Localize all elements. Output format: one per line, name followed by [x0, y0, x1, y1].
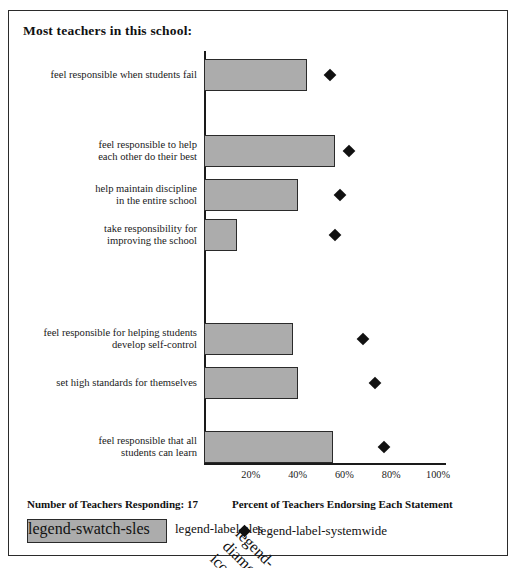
marker-systemwide-3	[333, 189, 346, 202]
category-label-1: feel responsible when students fail	[19, 69, 197, 81]
category-label-line: each other do their best	[19, 151, 197, 163]
chart-frame: Most teachers in this school: feel respo…	[8, 10, 508, 556]
x-axis-caption: Percent of Teachers Endorsing Each State…	[232, 498, 453, 510]
marker-systemwide-6	[368, 377, 381, 390]
legend-swatch-sles: legend-swatch-sles	[27, 519, 167, 543]
x-tick-label-60: 60%	[335, 469, 354, 480]
bar-3	[204, 179, 298, 211]
null[interactable]: legend-label-systemwide	[257, 523, 387, 539]
bar-7	[204, 431, 333, 463]
category-label-6: set high standards for themselves	[19, 377, 197, 389]
category-label-line: develop self-control	[19, 339, 197, 351]
category-label-line: feel responsible that all	[19, 435, 197, 447]
x-tick-label-80: 80%	[382, 469, 401, 480]
bar-5	[204, 323, 293, 355]
bar-2	[204, 135, 335, 167]
marker-systemwide-1	[324, 69, 337, 82]
category-label-line: feel responsible when students fail	[19, 69, 197, 81]
bar-1	[204, 59, 307, 91]
x-tick-label-100: 100%	[426, 469, 450, 480]
category-label-4: take responsibility forimproving the sch…	[19, 223, 197, 248]
category-label-7: feel responsible that allstudents can le…	[19, 435, 197, 460]
x-axis-line	[204, 463, 446, 465]
category-label-line: students can learn	[19, 447, 197, 459]
category-label-line: feel responsible for helping students	[19, 327, 197, 339]
bar-4	[204, 219, 237, 251]
marker-systemwide-5	[357, 333, 370, 346]
category-label-line: improving the school	[19, 235, 197, 247]
y-axis-line	[204, 51, 206, 463]
marker-systemwide-2	[343, 145, 356, 158]
category-label-line: in the entire school	[19, 195, 197, 207]
teachers-responding-label: Number of Teachers Responding: 17	[27, 498, 198, 510]
x-tick-label-40: 40%	[288, 469, 307, 480]
category-label-line: set high standards for themselves	[19, 377, 197, 389]
category-label-3: help maintain disciplinein the entire sc…	[19, 183, 197, 208]
category-label-line: feel responsible to help	[19, 139, 197, 151]
x-tick-label-20: 20%	[241, 469, 260, 480]
marker-systemwide-7	[378, 441, 391, 454]
bar-6	[204, 367, 298, 399]
category-label-line: take responsibility for	[19, 223, 197, 235]
marker-systemwide-4	[329, 229, 342, 242]
category-label-2: feel responsible to helpeach other do th…	[19, 139, 197, 164]
plot-area: feel responsible when students failfeel …	[9, 11, 509, 557]
category-label-5: feel responsible for helping studentsdev…	[19, 327, 197, 352]
category-label-line: help maintain discipline	[19, 183, 197, 195]
